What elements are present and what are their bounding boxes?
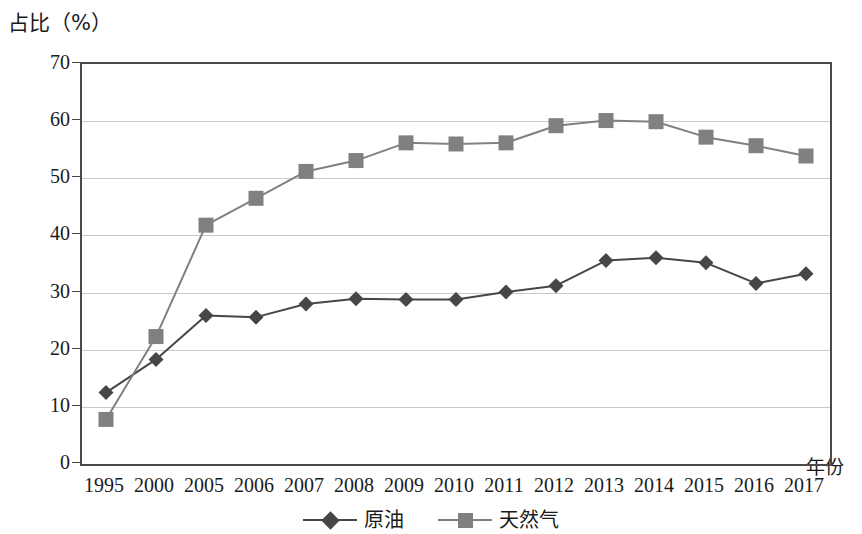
- x-tick-label: 2012: [534, 474, 574, 496]
- data-point-marker-square: [799, 149, 814, 164]
- data-point-marker-diamond: [99, 385, 114, 400]
- series-line-天然气: [106, 121, 806, 420]
- y-tick-label: 10: [4, 395, 70, 415]
- x-tick-label: 2008: [334, 474, 374, 496]
- x-tick-label: 2017: [784, 474, 824, 496]
- x-axis-tick-labels: 1995200020052006200720082009201020112012…: [0, 474, 862, 504]
- data-point-marker-diamond: [599, 253, 614, 268]
- data-point-marker-diamond: [799, 266, 814, 281]
- x-tick-label: 2015: [684, 474, 724, 496]
- data-point-marker-square: [399, 135, 414, 150]
- data-point-marker-diamond: [449, 292, 464, 307]
- x-tick-label: 2014: [634, 474, 674, 496]
- plot-area: [80, 62, 832, 466]
- y-tick-mark: [72, 62, 80, 63]
- y-tick-label: 50: [4, 166, 70, 186]
- x-tick-label: 2013: [584, 474, 624, 496]
- series-line-原油: [106, 258, 806, 393]
- y-tick-mark: [72, 405, 80, 406]
- data-point-marker-square: [299, 164, 314, 179]
- data-point-marker-square: [99, 412, 114, 427]
- data-point-marker-square: [199, 218, 214, 233]
- y-axis-tick-labels: 010203040506070: [0, 62, 70, 462]
- data-point-marker-square: [549, 118, 564, 133]
- chart-figure: 占比（%） 年份 010203040506070 199520002005200…: [0, 0, 862, 534]
- y-tick-mark: [72, 291, 80, 292]
- x-tick-label: 2010: [434, 474, 474, 496]
- legend-item-原油[interactable]: 原油: [303, 510, 404, 530]
- data-point-marker-square: [449, 137, 464, 152]
- y-tick-label: 70: [4, 52, 70, 72]
- data-point-marker-square: [349, 153, 364, 168]
- x-tick-label: 2016: [734, 474, 774, 496]
- legend-swatch-square-icon: [438, 512, 492, 528]
- y-tick-mark: [72, 233, 80, 234]
- x-tick-label: 2007: [284, 474, 324, 496]
- data-point-marker-square: [499, 135, 514, 150]
- y-tick-mark: [72, 348, 80, 349]
- data-point-marker-diamond: [299, 297, 314, 312]
- legend-label: 天然气: [499, 510, 559, 530]
- x-tick-label: 2006: [234, 474, 274, 496]
- x-tick-label: 1995: [84, 474, 124, 496]
- x-tick-label: 2009: [384, 474, 424, 496]
- data-point-marker-square: [749, 138, 764, 153]
- legend-item-天然气[interactable]: 天然气: [438, 510, 559, 530]
- legend-label: 原油: [364, 510, 404, 530]
- y-tick-mark: [72, 176, 80, 177]
- x-tick-label: 2011: [484, 474, 523, 496]
- series-layer: [82, 64, 830, 464]
- data-point-marker-diamond: [649, 250, 664, 265]
- y-tick-label: 60: [4, 109, 70, 129]
- y-tick-label: 30: [4, 281, 70, 301]
- data-point-marker-diamond: [549, 278, 564, 293]
- data-point-marker-square: [149, 329, 164, 344]
- data-point-marker-square: [249, 191, 264, 206]
- data-point-marker-diamond: [399, 292, 414, 307]
- data-point-marker-diamond: [249, 310, 264, 325]
- y-tick-mark: [72, 119, 80, 120]
- data-point-marker-square: [649, 114, 664, 129]
- data-point-marker-square: [599, 113, 614, 128]
- data-point-marker-diamond: [749, 276, 764, 291]
- x-tick-label: 2005: [184, 474, 224, 496]
- data-point-marker-square: [699, 130, 714, 145]
- data-point-marker-diamond: [349, 291, 364, 306]
- chart-legend: 原油天然气: [0, 506, 862, 534]
- y-tick-mark: [72, 462, 80, 463]
- y-tick-label: 40: [4, 223, 70, 243]
- y-tick-label: 0: [4, 452, 70, 472]
- y-axis-title: 占比（%）: [8, 6, 112, 36]
- legend-swatch-diamond-icon: [303, 512, 357, 528]
- y-tick-label: 20: [4, 338, 70, 358]
- data-point-marker-diamond: [499, 285, 514, 300]
- data-point-marker-diamond: [699, 255, 714, 270]
- x-tick-label: 2000: [134, 474, 174, 496]
